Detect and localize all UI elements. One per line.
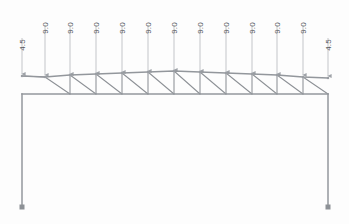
truss-web-member <box>226 73 252 94</box>
truss-web-member <box>96 74 122 94</box>
frame-columns-group <box>22 94 328 207</box>
base-supports-group <box>20 205 331 210</box>
truss-node-marker <box>95 73 97 75</box>
truss-web-member <box>303 77 328 94</box>
truss-node-marker <box>302 76 304 78</box>
load-value-label: 9.0 <box>222 22 231 34</box>
load-value-label: 9.0 <box>170 22 179 34</box>
load-value-label: 9.0 <box>248 22 257 34</box>
truss-node-marker <box>199 71 201 73</box>
load-value-label: 9.0 <box>118 22 127 34</box>
truss-node-marker <box>251 73 253 75</box>
right-support <box>326 205 331 210</box>
truss-node-marker <box>327 77 329 79</box>
load-value-label: 9.0 <box>144 22 153 34</box>
truss-node-marker <box>147 71 149 73</box>
truss-node-marker <box>173 70 175 72</box>
truss-web-member <box>148 72 174 94</box>
truss-web-member <box>70 75 96 94</box>
load-value-label: 9.0 <box>273 22 282 34</box>
truss-node-marker <box>276 74 278 76</box>
truss-web-member <box>252 74 277 94</box>
truss-node-marker <box>225 72 227 74</box>
load-value-label: 9.0 <box>66 22 75 34</box>
truss-node-marker <box>69 74 71 76</box>
load-value-label: 9.0 <box>299 22 308 34</box>
load-value-label: 4.5 <box>18 39 27 51</box>
truss-node-marker <box>121 72 123 74</box>
truss-web-member <box>45 77 70 94</box>
load-value-label: 9.0 <box>41 22 50 34</box>
truss-web-member <box>200 72 226 94</box>
truss-node-marker <box>21 75 23 77</box>
truss-web-member <box>174 71 200 94</box>
structural-frame-diagram: 4.59.09.09.09.09.09.09.09.09.09.09.04.5 <box>0 0 349 224</box>
truss-node-marker <box>44 76 46 78</box>
truss-web-member <box>277 75 303 94</box>
left-support <box>20 205 25 210</box>
load-value-label: 4.5 <box>324 39 333 51</box>
load-value-label: 9.0 <box>92 22 101 34</box>
truss-web-member <box>122 73 148 94</box>
load-value-label: 9.0 <box>196 22 205 34</box>
